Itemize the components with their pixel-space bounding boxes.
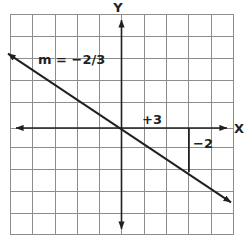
rise-label: −2 [193, 136, 213, 151]
graph-canvas: Y X m = −2/3 +3 −2 [0, 0, 245, 240]
slope-label: m = −2/3 [38, 52, 105, 67]
x-axis-label: X [234, 121, 244, 136]
run-label: +3 [142, 112, 162, 127]
coordinate-graph-figure: Y X m = −2/3 +3 −2 [0, 0, 245, 240]
figure-background [0, 0, 245, 240]
y-axis-label: Y [112, 0, 123, 15]
